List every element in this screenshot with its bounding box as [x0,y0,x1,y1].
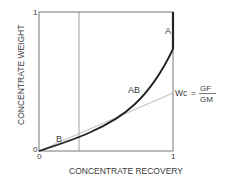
plot-frame [39,12,173,151]
point-a-label: A [165,26,171,36]
x-min-label: 0 [37,152,42,161]
y-axis-title: CONCENTRATE WEIGHT [16,25,26,125]
x-max-label: 1 [171,152,176,161]
diagram-canvas: 1 0 0 1 CONCENTRATE RECOVERY CONCENTRATE… [0,0,225,179]
formula-equals: = [191,88,196,98]
x-axis-title: CONCENTRATE RECOVERY [69,166,183,176]
point-ab-label: AB [128,85,140,95]
y-max-label: 1 [33,8,38,17]
formula-lhs: Wc [175,88,188,98]
point-b-label: B [56,134,62,144]
formula-numerator: GF [200,84,211,93]
formula-denominator: GM [200,95,213,104]
